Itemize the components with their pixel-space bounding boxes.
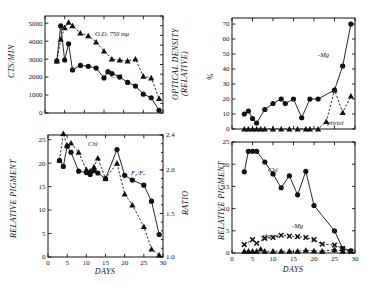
top-left-ytick-label: 5000 (29, 20, 44, 28)
bottom-left-ytick-right-label: 1.5 (166, 210, 175, 218)
top-left-point-circle (66, 41, 71, 46)
bottom-right-label-mg: -Mg (292, 222, 304, 229)
bottom-right-ylabel: RELATIVE PIGMENT (217, 161, 226, 241)
bottom-right-x-label: 30 (352, 255, 360, 263)
top-right-label-phytol: -phytol (325, 119, 344, 126)
bottom-left-x-label: 10 (83, 259, 91, 267)
top-left-ytick-label: 0 (39, 109, 43, 117)
bottom-left-x-label: 5 (65, 259, 69, 267)
top-left-point-circle (58, 23, 63, 28)
top-right-ytick-label: 20 (223, 95, 231, 103)
bottom-left-ytick-label: 25 (39, 136, 47, 144)
bottom-left-x-label: 0 (46, 259, 50, 267)
bottom-left-x-label: 30 (160, 259, 168, 267)
bottom-right-x-label: 10 (270, 255, 278, 263)
bottom-left-ylabel: RELATIVE PIGMENT (9, 159, 18, 239)
top-left-point-circle (156, 108, 161, 113)
top-left-point-circle (133, 83, 138, 88)
bottom-left-label-ratio: F₀/Fₐ (130, 169, 145, 176)
bottom-right-point-circle (295, 192, 300, 197)
bottom-right-point-circle (254, 149, 259, 154)
top-left-point-circle (86, 64, 91, 69)
bottom-left-point-circle (88, 172, 93, 177)
top-right-ytick-label: 10 (223, 110, 231, 118)
bottom-right-x-label: 20 (311, 255, 319, 263)
top-right-ytick-label: 50 (223, 50, 231, 58)
bottom-left-point-circle (130, 177, 135, 182)
bottom-left-point-circle (103, 176, 108, 181)
bottom-left-ytick-right-label: 2.0 (166, 166, 175, 174)
top-left-ytick-label: 1000 (29, 91, 44, 99)
top-left-point-circle (78, 63, 83, 68)
top-left-point-circle (125, 80, 130, 85)
bottom-right-x-label: 5 (251, 255, 255, 263)
top-right-point-circle (246, 108, 251, 113)
top-right-point-circle (262, 107, 267, 112)
top-right-point-circle (270, 101, 275, 106)
bottom-right-point-circle (279, 185, 284, 190)
top-left-point-circle (149, 95, 154, 100)
bottom-right-x-label: 15 (290, 255, 298, 263)
bottom-left-point-circle (57, 158, 62, 163)
bottom-right-point-circle (287, 173, 292, 178)
top-left-ytick-label: 3000 (29, 56, 44, 64)
top-left-point-circle (101, 75, 106, 80)
bottom-left-point-circle (157, 232, 162, 237)
bottom-right-ytick-label: 5 (226, 227, 230, 235)
bottom-right-label-chl: Chl (268, 166, 278, 173)
bottom-right-point-circle (242, 169, 247, 174)
top-right-ytick-label: 70 (223, 20, 231, 28)
bottom-right-point-circle (303, 169, 308, 174)
bottom-left-point-circle (61, 164, 66, 169)
top-left-ylabel: CTS/MIN (7, 44, 16, 78)
bottom-right-xlabel: DAYS (282, 265, 303, 274)
top-left-point-circle (62, 57, 67, 62)
top-left-label-od: O.D. 750 mμ (95, 30, 130, 37)
top-right-ytick-label: 60 (223, 35, 231, 43)
top-left-point-circle (94, 65, 99, 70)
top-left-point-circle (70, 67, 75, 72)
top-left-ytick-label: 4000 (29, 38, 44, 46)
top-right-point-circle (250, 116, 255, 121)
bottom-left-x-label: 20 (121, 259, 129, 267)
bottom-right-point-circle (262, 159, 267, 164)
bottom-right-x-label: 0 (230, 255, 234, 263)
top-right-ylabel: % (206, 73, 215, 80)
top-right-point-circle (307, 96, 312, 101)
bottom-left-point-circle (68, 150, 73, 155)
top-right-ytick-label: 30 (223, 80, 231, 88)
bottom-right-point-circle (311, 203, 316, 208)
top-left-point-circle (54, 58, 59, 63)
top-left-ylabel-right-1: OPTICAL DENSITY (171, 27, 180, 100)
figure-canvas: 010002000300040005000CTS/MINOPTICAL DENS… (0, 0, 365, 286)
bottom-left-point-circle (149, 199, 154, 204)
top-right-point-circle (254, 120, 259, 125)
bottom-right-point-circle (332, 228, 337, 233)
top-right-point-circle (348, 21, 353, 26)
top-left-ytick-label: 2000 (29, 73, 44, 81)
bottom-left-ytick-right-label: 2.4 (166, 131, 175, 139)
top-right-point-circle (279, 96, 284, 101)
top-left-point-circle (141, 92, 146, 97)
top-right-point-circle (340, 63, 345, 68)
top-right-label-mg: -Mg (318, 51, 330, 58)
bottom-right-label-phytol: -phytol (260, 232, 279, 239)
bottom-left-point-circle (114, 147, 119, 152)
top-right-point-circle (316, 96, 321, 101)
top-left-ylabel-right-2: (RELATIVE) (180, 51, 189, 96)
bottom-left-point-circle (65, 144, 70, 149)
bottom-left-ylabel-right: RATIO (181, 191, 190, 216)
figure-background (0, 0, 365, 286)
top-left-label-c14: C14 (111, 72, 123, 79)
bottom-left-x-label: 15 (102, 259, 110, 267)
bottom-left-point-circle (141, 183, 146, 188)
bottom-left-ytick-label: 5 (42, 230, 46, 238)
bottom-right-ytick-label: 25 (223, 138, 231, 146)
top-right-point-circle (283, 101, 288, 106)
bottom-left-ytick-right-label: 1.0 (166, 253, 175, 261)
bottom-left-ytick-label: 20 (39, 160, 47, 168)
bottom-right-x-label: 25 (331, 255, 339, 263)
bottom-left-xlabel: DAYS (94, 267, 115, 276)
bottom-left-point-circle (122, 173, 127, 178)
top-right-ytick-label: 40 (223, 65, 231, 73)
